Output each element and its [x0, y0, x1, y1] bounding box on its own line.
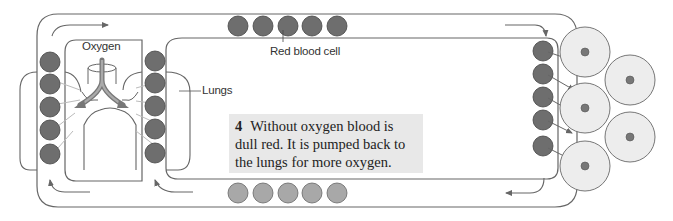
- caption-line-3: the lungs for more oxygen.: [235, 153, 423, 171]
- flow-arrow-top-right: [505, 25, 546, 36]
- caption-line-2: dull red. It is pumped back to: [235, 135, 423, 153]
- body-cells: [560, 27, 655, 191]
- oxygen-label: Oxygen: [82, 40, 120, 52]
- left-lung-outline: [20, 72, 37, 170]
- top-vessel-cells: [228, 16, 347, 36]
- red-blood-cell-label: Red blood cell: [270, 45, 340, 57]
- flow-arrow-top-left: [52, 25, 108, 36]
- circulation-diagram: [0, 0, 673, 221]
- lungs-label: Lungs: [202, 84, 232, 96]
- left-lung-cells: [40, 52, 60, 164]
- flow-arrow-bottom-middle: [155, 180, 193, 192]
- step-number: 4: [235, 118, 242, 134]
- right-lung-cells: [145, 51, 165, 163]
- tissue-side-cells: [533, 41, 553, 156]
- caption-box: 4Without oxygen blood is dull red. It is…: [229, 114, 423, 173]
- caption-line-1: 4Without oxygen blood is: [235, 117, 423, 135]
- flow-arrow-bottom-left: [50, 180, 90, 192]
- bottom-vessel-cells: [228, 183, 347, 203]
